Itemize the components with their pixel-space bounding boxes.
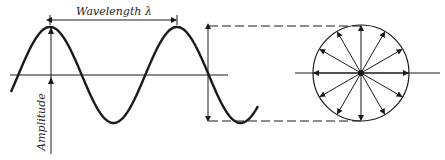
wave-diagram: Wavelength λ Amplitude — [0, 0, 445, 160]
amplitude-label: Amplitude — [35, 93, 48, 152]
spoke-arrow — [320, 73, 361, 97]
spoke-arrow — [361, 50, 402, 74]
spoke-arrow — [361, 32, 385, 73]
spoke-arrow — [320, 50, 361, 74]
circle-center — [358, 70, 364, 76]
wavelength-label: Wavelength λ — [76, 5, 152, 18]
spoke-arrow — [338, 32, 362, 73]
spoke-arrow — [338, 73, 362, 114]
spoke-arrow — [361, 73, 402, 97]
amplitude-arrowhead-axis — [48, 77, 54, 84]
spoke-arrow — [361, 73, 385, 114]
